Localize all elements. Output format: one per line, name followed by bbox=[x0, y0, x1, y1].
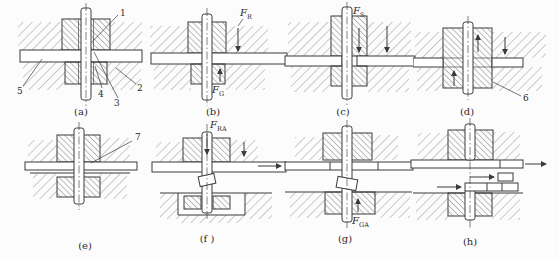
caption-e: (e) bbox=[78, 240, 92, 251]
part-label-1: 1 bbox=[120, 8, 126, 18]
part-label-2: 2 bbox=[137, 83, 143, 93]
force-label-fr: F R bbox=[239, 7, 253, 21]
caption-c: (c) bbox=[336, 106, 350, 117]
force-fr-leader bbox=[238, 19, 243, 26]
caption-b: (b) bbox=[206, 106, 220, 117]
sliding-key bbox=[498, 173, 513, 181]
svg-text:R: R bbox=[247, 13, 253, 21]
panel-e-drawing: 7 (e) bbox=[15, 122, 155, 257]
part-label-6: 6 bbox=[523, 93, 529, 103]
part-label-5: 5 bbox=[17, 86, 23, 96]
force-label-fga: F GA bbox=[351, 215, 369, 229]
caption-g: (g) bbox=[338, 233, 352, 244]
panel-b-drawing: F R F G (b) bbox=[148, 2, 290, 120]
sliding-plate-middle bbox=[465, 183, 518, 191]
caption-h: (h) bbox=[463, 236, 477, 247]
force-label-fg: F G bbox=[211, 84, 224, 98]
svg-text:GA: GA bbox=[359, 221, 369, 229]
panel-h-drawing: (h) bbox=[408, 118, 559, 259]
force-label-fra: F RA bbox=[209, 119, 227, 133]
svg-text:S: S bbox=[360, 11, 364, 19]
part-label-4: 4 bbox=[98, 89, 104, 99]
panel-a-drawing: 1 2 3 4 5 (a) bbox=[15, 2, 145, 120]
caption-d: (d) bbox=[460, 106, 474, 117]
clamped-plate bbox=[151, 53, 287, 64]
figure-canvas: 1 2 3 4 5 (a) F R F G (b) bbox=[0, 0, 559, 259]
caption-f: (f ) bbox=[200, 233, 215, 244]
part-label-7: 7 bbox=[135, 132, 141, 142]
caption-a: (a) bbox=[74, 106, 88, 117]
sliding-plate-top bbox=[411, 160, 523, 168]
panel-d-drawing: 6 (d) bbox=[413, 2, 559, 120]
panel-g-drawing: F GA (g) bbox=[250, 118, 432, 259]
svg-text:RA: RA bbox=[217, 125, 227, 133]
svg-text:G: G bbox=[219, 90, 224, 98]
panel-c-drawing: F S (c) bbox=[283, 2, 423, 120]
part-label-3: 3 bbox=[114, 98, 120, 108]
